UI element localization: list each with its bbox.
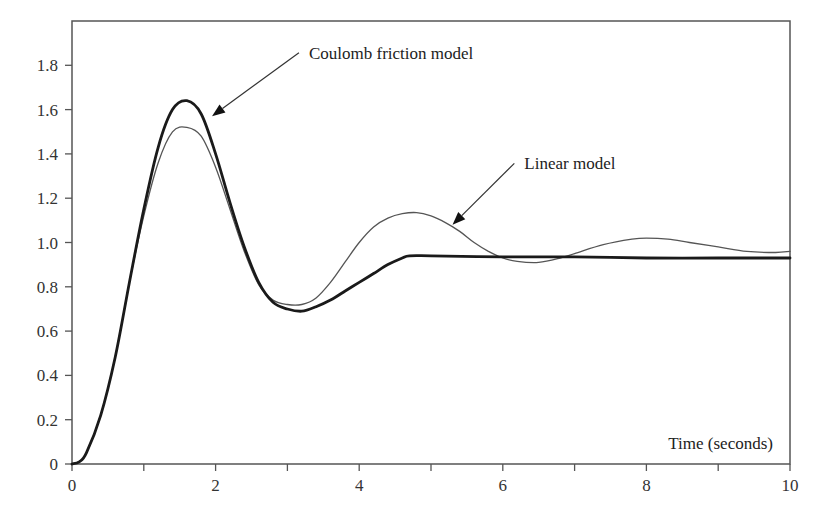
y-tick-label: 0 [50,455,59,474]
annotation-arrow-line [462,163,515,215]
y-tick-label: 0.2 [37,411,58,430]
y-axis: 00.20.40.60.81.01.21.41.61.8 [37,56,72,474]
x-tick-label: 4 [355,476,364,495]
y-tick-label: 1.6 [37,101,58,120]
x-tick-label: 0 [68,476,77,495]
series-layer [72,101,790,464]
x-tick-label: 10 [782,476,799,495]
x-axis-label: Time (seconds) [668,434,773,453]
y-tick-label: 1.4 [37,145,59,164]
y-tick-label: 1.0 [37,234,58,253]
y-tick-label: 1.2 [37,189,58,208]
arrowhead-icon [212,105,225,117]
linear-model-series [72,127,790,464]
plot-frame [72,21,790,464]
y-tick-label: 0.4 [37,366,59,385]
y-tick-label: 0.8 [37,278,58,297]
annotations: Coulomb friction modelLinear model [212,44,616,225]
step-response-chart: 00.20.40.60.81.01.21.41.61.8 0246810 Cou… [0,0,820,525]
x-axis: 0246810 [68,464,799,495]
x-tick-label: 8 [642,476,651,495]
annotation-arrow-line [223,53,299,109]
linear-annotation-label: Linear model [524,154,615,173]
plot-area-border [72,21,790,464]
x-tick-label: 2 [211,476,220,495]
y-tick-label: 1.8 [37,56,58,75]
x-tick-label: 6 [499,476,508,495]
coulomb-annotation-label: Coulomb friction model [309,44,474,63]
coulomb-friction-series [72,101,790,464]
y-tick-label: 0.6 [37,322,58,341]
